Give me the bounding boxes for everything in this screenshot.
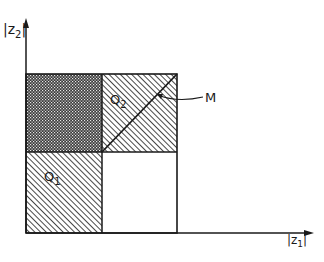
empty-region [102,152,177,233]
q1-region [26,152,102,233]
overlap-region [26,74,102,152]
m-label: M [205,90,216,105]
x-axis-label: |z1| [287,233,307,249]
y-axis-label: |z2| [3,21,26,40]
diagram-canvas: |z2| |z1| Q2 Q1 M [0,0,324,262]
